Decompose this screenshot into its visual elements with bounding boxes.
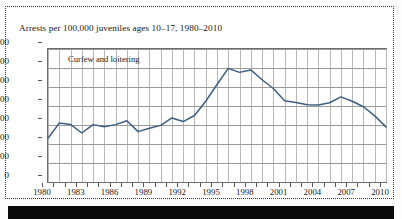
y-axis-tick-200 [38, 137, 42, 138]
x-axis-tick-2006 [335, 183, 336, 187]
scan-black-bar [8, 206, 394, 219]
x-axis-tick-1990 [155, 183, 156, 187]
x-axis-tick-1999 [256, 183, 257, 187]
x-axis-label-1983: 1983 [67, 187, 85, 197]
x-axis-tick-1988 [132, 183, 133, 187]
x-axis-tick-1987 [121, 183, 122, 187]
x-axis-label-2007: 2007 [337, 187, 355, 197]
x-axis-tick-1996 [222, 183, 223, 187]
x-axis-tick-1984 [87, 183, 88, 187]
x-axis-label-2010: 2010 [371, 187, 389, 197]
series-line-curfew-and-loitering [48, 49, 386, 182]
x-axis-label-1992: 1992 [168, 187, 186, 197]
y-axis-label-500: 500 [0, 75, 9, 85]
y-axis-tick-100 [38, 156, 42, 157]
x-axis-tick-2000 [267, 183, 268, 187]
y-axis-label-0: 0 [0, 170, 9, 180]
figure-page: wisconsin Arrests per 100,000 juveniles … [0, 0, 402, 219]
gridline-year-2010 [386, 49, 387, 182]
x-axis-tick-2009 [369, 183, 370, 187]
y-axis-label-300: 300 [0, 113, 9, 123]
plot-area: Curfew and loitering [47, 48, 387, 183]
x-axis-tick-1993 [188, 183, 189, 187]
y-axis-tick-400 [38, 99, 42, 100]
x-axis-tick-2005 [324, 183, 325, 187]
x-axis-label-1980: 1980 [33, 187, 51, 197]
x-axis-label-2004: 2004 [304, 187, 322, 197]
series-polyline [48, 68, 386, 138]
y-axis-label-100: 100 [0, 151, 9, 161]
y-axis-label-400: 400 [0, 94, 9, 104]
y-axis-tick-500 [38, 80, 42, 81]
x-axis-label-2001: 2001 [270, 187, 288, 197]
x-axis-tick-1982 [65, 183, 66, 187]
x-axis-label-1989: 1989 [135, 187, 153, 197]
y-axis-tick-300 [38, 118, 42, 119]
y-axis-label-200: 200 [0, 132, 9, 142]
x-axis-label-1995: 1995 [202, 187, 220, 197]
y-axis-tick-600 [38, 61, 42, 62]
scan-frame: Arrests per 100,000 juveniles ages 10–17… [5, 6, 394, 199]
y-axis-tick-0 [38, 175, 42, 176]
x-axis-tick-2008 [357, 183, 358, 187]
x-axis-tick-2003 [301, 183, 302, 187]
chart-title: Arrests per 100,000 juveniles ages 10–17… [19, 23, 222, 33]
x-axis-tick-1981 [53, 183, 54, 187]
x-axis-label-1986: 1986 [101, 187, 119, 197]
x-axis-label-1998: 1998 [236, 187, 254, 197]
x-axis-tick-1997 [234, 183, 235, 187]
x-axis-tick-1994 [200, 183, 201, 187]
x-axis-tick-1991 [166, 183, 167, 187]
x-axis-tick-1985 [98, 183, 99, 187]
y-axis-label-600: 600 [0, 56, 9, 66]
y-axis-tick-700 [38, 42, 42, 43]
y-axis-label-700: 700 [0, 37, 9, 47]
x-axis-tick-2002 [290, 183, 291, 187]
